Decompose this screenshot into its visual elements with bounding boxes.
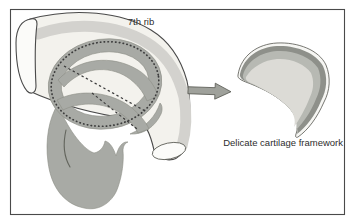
framework-label: Delicate cartilage framework [223,137,343,148]
rib-label: 7th rib [128,16,154,27]
figure-panel: 7th rib Delicate cartilage framework [0,0,353,224]
illustration-canvas: 7th rib Delicate cartilage framework [0,0,353,224]
